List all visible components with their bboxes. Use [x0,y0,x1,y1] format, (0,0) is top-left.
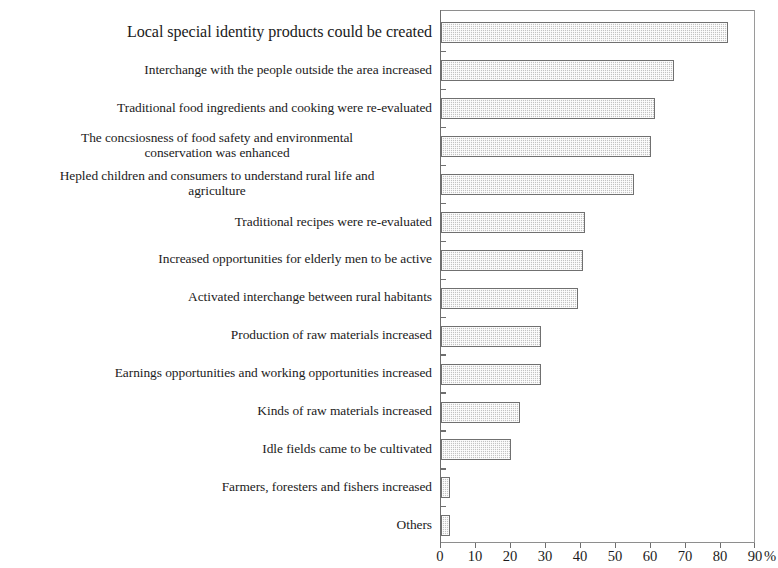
bar [441,212,585,233]
bar [441,439,511,460]
y-axis-tick [441,430,446,431]
y-axis-tick [441,127,446,128]
category-label: Farmers, foresters and fishers increased [2,479,432,495]
x-axis-tick-label: 60 [643,548,658,565]
y-axis-tick [441,392,446,393]
y-axis-tick [441,165,446,166]
category-label: Increased opportunities for elderly men … [2,251,432,267]
bar [441,326,541,347]
x-axis-tick-label: 50 [608,548,623,565]
category-label: Traditional recipes were re-evaluated [2,214,432,230]
plot-area [440,10,755,543]
bar [441,60,674,81]
x-axis-tick-label: 80 [713,548,728,565]
category-label: Hepled children and consumers to underst… [2,168,432,199]
category-label: The concsiosness of food safety and envi… [2,130,432,161]
bar [441,288,578,309]
category-label: Traditional food ingredients and cooking… [2,100,432,116]
category-label: Earnings opportunities and working oppor… [2,365,432,381]
x-axis-tick-label: 0 [436,548,443,565]
bar [441,477,450,498]
y-axis-tick [441,317,446,318]
x-axis-tick-label: 70 [678,548,693,565]
bar [441,174,634,195]
bar [441,515,450,536]
x-axis-tick-label: 30 [538,548,553,565]
x-axis: 0102030405060708090% [440,543,755,568]
category-label: Local special identity products could be… [2,23,432,41]
category-label: Activated interchange between rural habi… [2,289,432,305]
x-axis-tick-label: 10 [468,548,483,565]
bar [441,136,651,157]
y-axis-tick [441,354,446,355]
bar [441,250,583,271]
bar [441,364,541,385]
bar [441,98,655,119]
category-label: Idle fields came to be cultivated [2,441,432,457]
y-axis-tick [441,506,446,507]
category-label: Production of raw materials increased [2,327,432,343]
x-axis-tick-label: 40 [573,548,588,565]
category-label: Kinds of raw materials increased [2,403,432,419]
category-label-column: Local special identity products could be… [0,0,436,543]
bar [441,402,520,423]
x-axis-tick-label: 90 [748,548,763,565]
y-axis-tick [441,279,446,280]
category-label: Interchange with the people outside the … [2,62,432,78]
y-axis-tick [441,468,446,469]
y-axis-tick [441,51,446,52]
category-label: Others [2,517,432,533]
y-axis-tick [441,241,446,242]
y-axis-tick [441,89,446,90]
bar [441,22,728,43]
x-axis-unit-label: % [764,548,776,565]
bar-chart: Local special identity products could be… [0,0,778,568]
x-axis-tick-label: 20 [503,548,518,565]
y-axis-tick [441,203,446,204]
